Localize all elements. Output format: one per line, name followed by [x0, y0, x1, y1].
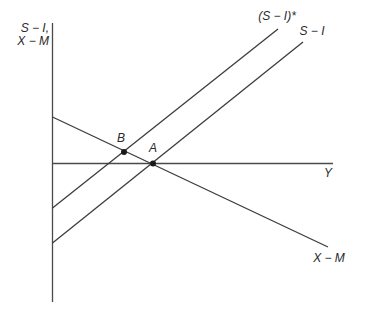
curve-label-s-i-star: (S − I)*: [258, 10, 296, 23]
point-label-b: B: [117, 132, 125, 145]
y-axis-label-line1: S − I,: [21, 21, 49, 35]
diagram-canvas: [0, 0, 366, 314]
x-axis-label: Y: [324, 167, 332, 180]
y-axis-label-line2: X − M: [17, 34, 49, 48]
curve-x-m: [53, 117, 329, 247]
curve-s-i-star: [53, 29, 279, 208]
open-economy-diagram: S − I, X − M Y (S − I)* S − I X − M B A: [0, 0, 366, 314]
point-label-a: A: [149, 142, 157, 155]
curve-s-i: [53, 42, 304, 243]
curve-label-x-m: X − M: [313, 252, 345, 265]
curve-label-s-i: S − I: [299, 25, 324, 38]
y-axis-label: S − I, X − M: [17, 22, 49, 48]
point-b-dot: [121, 149, 127, 155]
point-a-dot: [150, 161, 156, 167]
